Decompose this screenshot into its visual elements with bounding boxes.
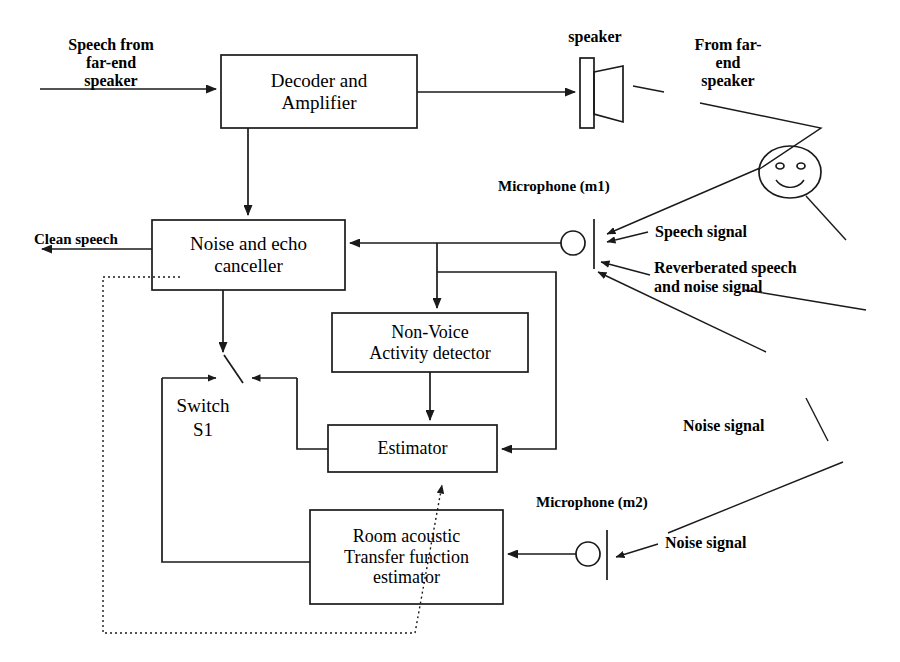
label-reverberated-speech-and-noise-signal: Reverberated speech and noise signal: [654, 258, 874, 296]
speaker-icon-cone: [594, 66, 623, 122]
label-microphone-m1: Microphone (m1): [498, 178, 678, 195]
label-noise-signal-upper: Noise signal: [683, 417, 823, 435]
label-from-far-end-speaker: From far- end speaker: [668, 36, 788, 90]
box-label-noise-and-echo-canceller: Noise and echo canceller: [152, 220, 345, 290]
label-noise-signal-lower: Noise signal: [665, 534, 805, 552]
label-speech-signal: Speech signal: [655, 223, 805, 241]
ray-noise-signal-to-mic2: [616, 544, 658, 557]
ray-reverberated-bounce: [806, 196, 846, 240]
label-clean-speech: Clean speech: [34, 231, 164, 248]
switch-s1-blade[interactable]: [224, 355, 243, 383]
box-label-decoder-and-amplifier: Decoder and Amplifier: [221, 55, 417, 128]
label-switch-s1: Switch S1: [148, 394, 258, 442]
label-speaker-caption: speaker: [540, 28, 650, 46]
box-label-room-acoustic-transfer-function-estimator: Room acoustic Transfer function estimato…: [310, 510, 503, 604]
speaker-icon-body: [580, 58, 594, 128]
box-label-estimator: Estimator: [328, 425, 497, 472]
diagram-canvas: Decoder and Amplifier Noise and echo can…: [0, 0, 900, 662]
smiley-face-icon-outline: [759, 146, 821, 198]
microphone-m1-icon-capsule: [561, 231, 585, 255]
ray-far-end-speaker-to-face: [700, 103, 821, 170]
smiley-face-icon-eye-left: [776, 163, 784, 169]
label-speech-from-far-end-speaker: Speech from far-end speaker: [36, 36, 186, 90]
smiley-face-icon-eye-right: [797, 163, 805, 169]
microphone-m2-icon-capsule: [576, 542, 600, 566]
smiley-face-icon-mouth: [776, 180, 804, 187]
conn-estimator-left-to-switch-contact: [297, 378, 328, 449]
leader-reverberated-speech: [601, 262, 650, 275]
leader-speech-signal: [607, 232, 648, 242]
leader-from-far-end-speaker: [633, 86, 664, 92]
label-microphone-m2: Microphone (m2): [536, 494, 721, 511]
box-label-non-voice-activity-detector: Non-Voice Activity detector: [332, 313, 528, 372]
